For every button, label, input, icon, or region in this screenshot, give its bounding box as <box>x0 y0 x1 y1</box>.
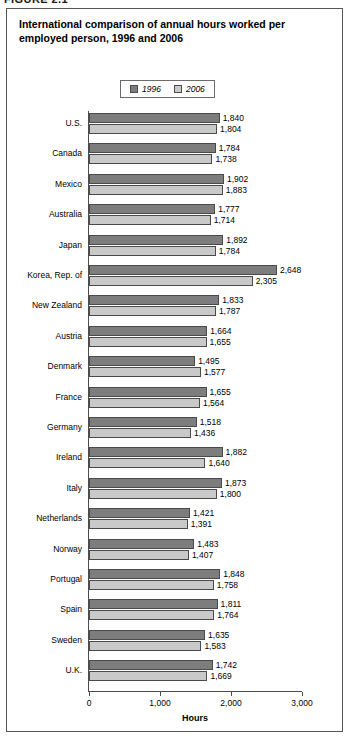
bar-2006 <box>89 489 217 499</box>
bar-1996 <box>89 478 222 488</box>
bar-value-label: 1,577 <box>204 367 225 377</box>
category-label: Australia <box>7 209 82 219</box>
category-label: U.K. <box>7 665 82 675</box>
bar-group: Austria1,6641,655 <box>7 326 344 350</box>
bar-2006 <box>89 276 253 286</box>
bar-2006 <box>89 124 217 134</box>
bar-1996 <box>89 387 207 397</box>
bar-value-label: 1,787 <box>219 306 240 316</box>
bar-value-label: 1,804 <box>220 124 241 134</box>
bar-1996 <box>89 508 190 518</box>
bar-group: U.K.1,7421,669 <box>7 660 344 684</box>
bar-2006 <box>89 458 205 468</box>
bar-2006 <box>89 185 223 195</box>
bar-group: Norway1,4831,407 <box>7 539 344 563</box>
bar-value-label: 1,777 <box>218 204 239 214</box>
bar-2006 <box>89 306 216 316</box>
plot-area: U.S.1,8401,804Canada1,7841,738Mexico1,90… <box>7 9 344 733</box>
x-axis-tick-mark <box>160 692 161 696</box>
bar-1996 <box>89 356 195 366</box>
bar-value-label: 2,648 <box>280 265 301 275</box>
bar-value-label: 1,840 <box>223 113 244 123</box>
bar-value-label: 1,833 <box>222 295 243 305</box>
bar-2006 <box>89 246 216 256</box>
bar-group: Mexico1,9021,883 <box>7 174 344 198</box>
bar-2006 <box>89 580 214 590</box>
bar-1996 <box>89 417 197 427</box>
bar-1996 <box>89 326 207 336</box>
bar-1996 <box>89 539 194 549</box>
bar-value-label: 1,873 <box>225 478 246 488</box>
bar-value-label: 1,495 <box>198 356 219 366</box>
bar-group: Spain1,8111,764 <box>7 599 344 623</box>
bar-value-label: 1,738 <box>215 154 236 164</box>
x-axis-tick-mark <box>302 692 303 696</box>
bar-value-label: 1,407 <box>192 550 213 560</box>
bar-2006 <box>89 215 211 225</box>
category-label: Mexico <box>7 179 82 189</box>
bar-1996 <box>89 660 213 670</box>
bar-value-label: 1,784 <box>219 143 240 153</box>
figure-panel: International comparison of annual hours… <box>6 8 343 732</box>
bar-group: France1,6551,564 <box>7 387 344 411</box>
category-label: Korea, Rep. of <box>7 270 82 280</box>
bar-1996 <box>89 174 224 184</box>
bar-value-label: 1,635 <box>208 630 229 640</box>
x-axis-tick-mark <box>231 692 232 696</box>
category-label: Norway <box>7 544 82 554</box>
bar-value-label: 1,518 <box>200 417 221 427</box>
bar-group: Portugal1,8481,758 <box>7 569 344 593</box>
bar-group: Sweden1,6351,583 <box>7 630 344 654</box>
bar-value-label: 1,669 <box>210 671 231 681</box>
bar-group: New Zealand1,8331,787 <box>7 295 344 319</box>
category-label: Ireland <box>7 452 82 462</box>
bar-group: Korea, Rep. of2,6482,305 <box>7 265 344 289</box>
bar-group: Germany1,5181,436 <box>7 417 344 441</box>
bar-group: Netherlands1,4211,391 <box>7 508 344 532</box>
bar-1996 <box>89 235 223 245</box>
bar-value-label: 1,742 <box>216 660 237 670</box>
bar-value-label: 1,902 <box>227 174 248 184</box>
category-label: Japan <box>7 240 82 250</box>
category-label: New Zealand <box>7 300 82 310</box>
category-label: Sweden <box>7 635 82 645</box>
bar-group: Ireland1,8821,640 <box>7 447 344 471</box>
bar-1996 <box>89 295 219 305</box>
bar-group: U.S.1,8401,804 <box>7 113 344 137</box>
bar-2006 <box>89 367 201 377</box>
category-label: Portugal <box>7 574 82 584</box>
bar-2006 <box>89 154 212 164</box>
x-axis-tick-label: 1,000 <box>149 698 170 708</box>
bar-value-label: 1,391 <box>191 519 212 529</box>
category-label: Germany <box>7 422 82 432</box>
bar-group: Japan1,8921,784 <box>7 235 344 259</box>
category-label: Spain <box>7 604 82 614</box>
category-label: Denmark <box>7 361 82 371</box>
bar-value-label: 1,811 <box>221 599 242 609</box>
bar-value-label: 1,640 <box>208 458 229 468</box>
bar-value-label: 2,305 <box>256 276 277 286</box>
bar-2006 <box>89 641 201 651</box>
bar-group: Italy1,8731,800 <box>7 478 344 502</box>
bar-1996 <box>89 630 205 640</box>
bar-1996 <box>89 569 220 579</box>
x-axis-line <box>88 691 302 692</box>
bar-group: Australia1,7771,714 <box>7 204 344 228</box>
bar-2006 <box>89 337 207 347</box>
figure-label: FIGURE 2.1 <box>4 0 68 5</box>
bar-value-label: 1,784 <box>219 246 240 256</box>
bar-2006 <box>89 550 189 560</box>
bar-1996 <box>89 447 223 457</box>
x-axis-tick-mark <box>89 692 90 696</box>
bar-value-label: 1,883 <box>226 185 247 195</box>
bar-1996 <box>89 113 220 123</box>
bar-value-label: 1,664 <box>210 326 231 336</box>
bar-value-label: 1,436 <box>194 428 215 438</box>
bar-value-label: 1,421 <box>193 508 214 518</box>
x-axis-tick-label: 2,000 <box>220 698 241 708</box>
bar-value-label: 1,848 <box>223 569 244 579</box>
x-axis-tick-label: 3,000 <box>291 698 312 708</box>
x-axis-title: Hours <box>88 713 302 723</box>
x-axis-tick-label: 0 <box>87 698 92 708</box>
bar-value-label: 1,892 <box>226 235 247 245</box>
